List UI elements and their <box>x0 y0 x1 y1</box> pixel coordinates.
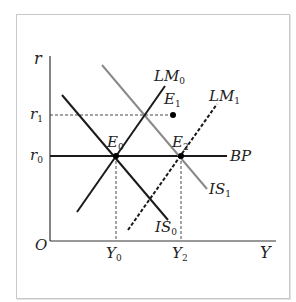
e0-point <box>113 153 119 159</box>
origin-label: O <box>35 236 47 254</box>
x-axis-label: Y <box>260 243 272 262</box>
lm0-label: LM0 <box>153 67 185 86</box>
is0-label: IS0 <box>154 218 177 237</box>
r0-label: r0 <box>30 146 43 165</box>
e1-point <box>170 112 176 118</box>
e0-label: E0 <box>106 133 124 152</box>
lm1-curve <box>128 104 217 230</box>
e2-point <box>178 153 184 159</box>
e1-label: E1 <box>163 90 181 109</box>
bp-label: BP <box>229 147 252 165</box>
y2-label: Y2 <box>172 244 188 263</box>
lm1-label: LM1 <box>208 87 240 106</box>
y-axis-label: r <box>34 49 43 68</box>
is-lm-bp-diagram: r Y O r1 r0 Y0 Y2 LM0 LM1 BP IS1 IS0 E0 … <box>0 0 296 302</box>
is1-label: IS1 <box>208 180 231 199</box>
y0-label: Y0 <box>106 244 122 263</box>
e2-label: E2 <box>171 133 189 152</box>
r1-label: r1 <box>30 105 43 124</box>
